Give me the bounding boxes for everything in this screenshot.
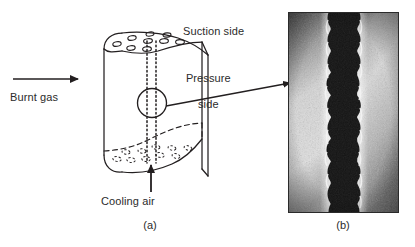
label-cooling-air: Cooling air	[101, 195, 155, 208]
micrograph-image	[288, 12, 399, 213]
label-burnt-gas: Burnt gas	[10, 91, 58, 104]
film-cooling-holes	[113, 31, 185, 51]
label-pressure-side-line2: side	[198, 98, 219, 110]
caption-panel-b: (b)	[313, 219, 373, 231]
label-pressure-side: Pressure side	[171, 59, 233, 124]
label-pressure-side-line1: Pressure	[186, 72, 231, 84]
label-suction-side: Suction side	[183, 25, 244, 38]
caption-panel-a: (a)	[120, 219, 180, 231]
micrograph-panel	[288, 12, 399, 213]
figure-container: Suction side Pressure side Burnt gas Coo…	[0, 0, 415, 247]
